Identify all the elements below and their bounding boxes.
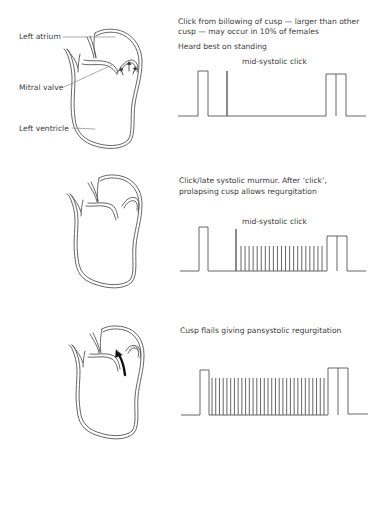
heart-diagram-late-systolic bbox=[67, 175, 142, 288]
phonocardiogram-2 bbox=[180, 227, 366, 271]
late-systolic-murmur-bars bbox=[241, 246, 322, 271]
regurgitation-arrow-icon bbox=[116, 350, 126, 375]
heart-diagram-pansystolic bbox=[69, 326, 144, 439]
phonocardiogram-3 bbox=[181, 368, 368, 415]
leader-line-left-ventricle bbox=[72, 128, 95, 129]
heart-diagram-normal-click bbox=[64, 29, 142, 148]
diagram-canvas bbox=[0, 0, 390, 507]
pansystolic-murmur-bars bbox=[212, 378, 324, 415]
phonocardiogram-1 bbox=[178, 71, 366, 116]
